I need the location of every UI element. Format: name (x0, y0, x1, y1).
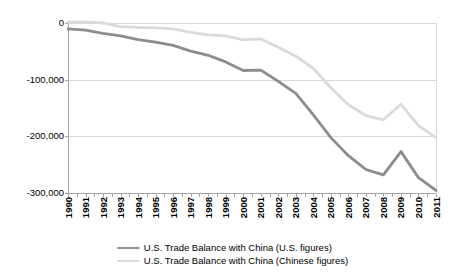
x-axis-label: 1992 (98, 197, 109, 225)
y-axis-label: -300,000 (0, 187, 64, 199)
plot-area (0, 0, 465, 280)
x-axis-label: 2003 (290, 197, 301, 225)
x-axis-label: 1994 (133, 197, 144, 225)
x-axis-label: 2001 (255, 197, 266, 225)
x-axis-label: 2002 (273, 197, 284, 225)
y-axis-label: -200,000 (0, 130, 64, 142)
x-axis-label: 1998 (203, 197, 214, 225)
series-line-0 (68, 29, 436, 191)
x-axis-label: 2004 (308, 197, 319, 225)
x-axis-label: 1990 (63, 197, 74, 225)
x-axis-label: 1996 (168, 197, 179, 225)
x-axis-label: 2005 (325, 197, 336, 225)
x-axis-label: 1997 (185, 197, 196, 225)
x-axis-label: 2000 (238, 197, 249, 225)
series-line-1 (68, 22, 436, 138)
x-axis-label: 1991 (80, 197, 91, 225)
x-axis-label: 1993 (115, 197, 126, 225)
chinese-figures-legend-label: U.S. Trade Balance with China (Chinese f… (144, 255, 348, 266)
x-axis-label: 2010 (413, 197, 424, 225)
y-axis-label: -100,000 (0, 74, 64, 86)
chinese-figures-line-marker (117, 260, 139, 262)
x-axis-label: 2007 (360, 197, 371, 225)
x-axis-label: 1999 (220, 197, 231, 225)
legend: U.S. Trade Balance with China (U.S. figu… (117, 241, 348, 267)
trade-balance-chart: 0-100,000-200,000-300,000 19901991199219… (0, 0, 465, 280)
x-axis-label: 2011 (431, 197, 442, 225)
legend-item-chinese-figures: U.S. Trade Balance with China (Chinese f… (117, 254, 348, 267)
x-axis-label: 2009 (395, 197, 406, 225)
x-axis-label: 2008 (378, 197, 389, 225)
legend-item-us-figures: U.S. Trade Balance with China (U.S. figu… (117, 241, 348, 254)
us-figures-line-marker (117, 247, 139, 249)
y-axis-label: 0 (0, 17, 64, 29)
x-axis-label: 1995 (150, 197, 161, 225)
x-axis-label: 2006 (343, 197, 354, 225)
us-figures-legend-label: U.S. Trade Balance with China (U.S. figu… (144, 242, 332, 253)
